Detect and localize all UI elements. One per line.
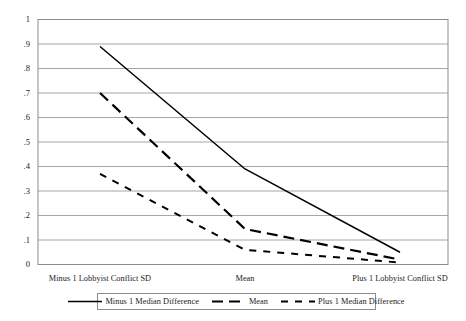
y-tick-label: .5 <box>4 138 30 147</box>
y-tick-label: 0 <box>4 260 30 269</box>
y-tick-label: .2 <box>4 211 30 220</box>
legend-item-0: Minus 1 Median Difference <box>68 297 199 306</box>
legend-item-2: Plus 1 Median Difference <box>281 297 405 306</box>
chart-figure: 1.9.8.7.6.5.4.3.2.10 Minus 1 Lobbyist Co… <box>0 0 466 321</box>
y-tick-label: .9 <box>4 40 30 49</box>
legend-line-sample-long-dash <box>212 297 246 306</box>
y-tick-label: .8 <box>4 64 30 73</box>
legend-line-sample-short-dash <box>281 297 315 306</box>
legend-item-label: Mean <box>249 297 268 306</box>
y-tick-label: .3 <box>4 187 30 196</box>
legend-item-label: Minus 1 Median Difference <box>105 297 199 306</box>
y-tick-label: .1 <box>4 236 30 245</box>
legend-item-label: Plus 1 Median Difference <box>318 297 405 306</box>
legend-item-1: Mean <box>212 297 268 306</box>
legend-line-sample-solid <box>68 297 102 306</box>
line-chart-plot <box>0 0 466 321</box>
x-tick-label: Mean <box>155 274 335 283</box>
x-tick-label: Plus 1 Lobbyist Conflict SD <box>310 274 466 283</box>
chart-legend: Minus 1 Median Difference Mean Plus 1 Me… <box>97 293 376 310</box>
y-tick-label: .7 <box>4 89 30 98</box>
y-tick-label: .6 <box>4 113 30 122</box>
y-tick-label: .4 <box>4 162 30 171</box>
y-tick-label: 1 <box>4 15 30 24</box>
